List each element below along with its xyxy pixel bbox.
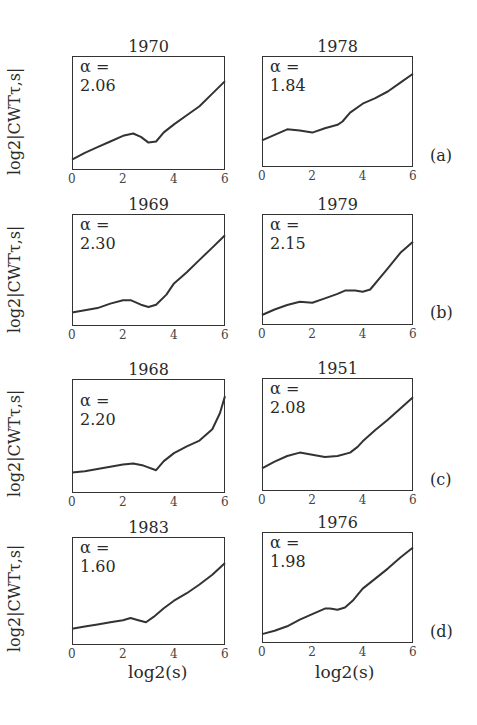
x-tick-label: 4 <box>170 172 178 186</box>
subplot-title: 1979 <box>262 195 413 214</box>
x-tick-label: 2 <box>119 328 127 342</box>
x-axis-label: log2(s) <box>315 662 374 682</box>
y-axis-label: log2|CWTτ,s| <box>5 68 24 175</box>
subplot-title: 1969 <box>72 195 225 214</box>
y-axis-label: log2|CWTτ,s| <box>5 545 24 652</box>
subplot-title: 1951 <box>262 359 413 378</box>
x-tick-label: 0 <box>68 495 76 509</box>
x-tick-label: 2 <box>308 327 316 341</box>
data-line <box>262 378 413 491</box>
x-tick-label: 6 <box>221 172 229 186</box>
row-label: (d) <box>430 622 453 641</box>
x-tick-label: 6 <box>409 327 417 341</box>
x-tick-label: 6 <box>221 495 229 509</box>
x-tick-label: 4 <box>359 169 367 183</box>
subplot-title: 1978 <box>262 37 413 56</box>
row-label: (b) <box>430 303 453 322</box>
data-line <box>262 532 413 643</box>
y-axis-label: log2|CWTτ,s| <box>5 390 24 497</box>
x-tick-label: 2 <box>119 647 127 661</box>
data-line <box>262 214 413 325</box>
subplot-title: 1976 <box>262 513 413 532</box>
subplot-title: 1970 <box>72 37 225 56</box>
subplot-title: 1968 <box>72 360 225 379</box>
x-tick-label: 4 <box>359 645 367 659</box>
data-line <box>72 537 225 645</box>
y-axis-label: log2|CWTτ,s| <box>5 226 24 333</box>
data-line <box>72 214 225 326</box>
x-tick-label: 4 <box>170 328 178 342</box>
x-tick-label: 6 <box>221 647 229 661</box>
x-tick-label: 0 <box>258 327 266 341</box>
x-tick-label: 2 <box>119 495 127 509</box>
x-tick-label: 6 <box>409 493 417 507</box>
x-tick-label: 0 <box>68 328 76 342</box>
x-tick-label: 6 <box>409 645 417 659</box>
data-line <box>72 56 225 170</box>
x-tick-label: 2 <box>119 172 127 186</box>
x-tick-label: 2 <box>308 493 316 507</box>
x-tick-label: 6 <box>409 169 417 183</box>
x-tick-label: 2 <box>308 645 316 659</box>
row-label: (a) <box>430 146 452 165</box>
x-tick-label: 6 <box>221 328 229 342</box>
x-tick-label: 0 <box>258 169 266 183</box>
row-label: (c) <box>430 470 451 489</box>
x-tick-label: 4 <box>170 495 178 509</box>
x-tick-label: 4 <box>170 647 178 661</box>
subplot-title: 1983 <box>72 518 225 537</box>
x-tick-label: 0 <box>68 647 76 661</box>
x-tick-label: 2 <box>308 169 316 183</box>
data-line <box>72 379 225 493</box>
x-tick-label: 4 <box>359 493 367 507</box>
x-tick-label: 0 <box>258 645 266 659</box>
data-line <box>262 56 413 167</box>
x-tick-label: 0 <box>258 493 266 507</box>
x-axis-label: log2(s) <box>128 662 187 682</box>
x-tick-label: 4 <box>359 327 367 341</box>
x-tick-label: 0 <box>68 172 76 186</box>
